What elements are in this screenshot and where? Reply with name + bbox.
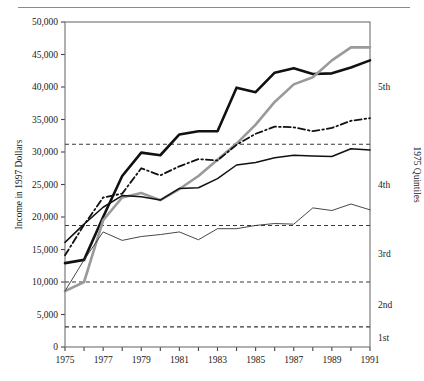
quintile-label-4th: 4th bbox=[378, 180, 390, 190]
y-tick-label: 25,000 bbox=[32, 180, 58, 190]
quintile-label-5th: 5th bbox=[378, 82, 390, 92]
quintile-label-3rd: 3rd bbox=[378, 249, 391, 259]
plot-border bbox=[65, 22, 370, 347]
x-tick-label: 1985 bbox=[246, 355, 265, 365]
x-tick-label: 1991 bbox=[361, 355, 380, 365]
right-axis-title: 1975 Quintiles bbox=[412, 146, 422, 203]
series-line-series-dash-dot bbox=[65, 118, 370, 255]
plot-frame bbox=[65, 22, 370, 347]
x-tick-label: 1983 bbox=[208, 355, 227, 365]
y-axis-title-group: Income in 1997 Dollars bbox=[14, 139, 24, 229]
chart-container: Income in 1997 Dollars 1975 Quintiles 05… bbox=[0, 0, 424, 381]
x-tick-label: 1975 bbox=[56, 355, 75, 365]
y-tick-label: 30,000 bbox=[32, 147, 58, 157]
x-tick-label: 1987 bbox=[284, 355, 303, 365]
series-line-series-gray bbox=[65, 47, 370, 291]
figure-root: Income in 1997 Dollars 1975 Quintiles 05… bbox=[0, 0, 424, 381]
right-axis-title-group: 1975 Quintiles bbox=[412, 146, 422, 203]
data-series-group bbox=[65, 47, 370, 291]
y-tick-label: 20,000 bbox=[32, 212, 58, 222]
y-tick-label: 50,000 bbox=[32, 17, 58, 27]
quintile-label-2nd: 2nd bbox=[378, 300, 393, 310]
y-axis-ticks-group: 05,00010,00015,00020,00025,00030,00035,0… bbox=[32, 17, 65, 352]
y-axis-title: Income in 1997 Dollars bbox=[14, 139, 24, 229]
x-tick-label: 1989 bbox=[322, 355, 341, 365]
y-tick-label: 15,000 bbox=[32, 245, 58, 255]
y-tick-label: 0 bbox=[53, 342, 58, 352]
y-tick-label: 40,000 bbox=[32, 82, 58, 92]
y-tick-label: 10,000 bbox=[32, 277, 58, 287]
x-tick-label: 1977 bbox=[94, 355, 113, 365]
y-tick-label: 45,000 bbox=[32, 50, 58, 60]
quintile-labels-group: 1st2nd3rd4th5th bbox=[378, 82, 393, 342]
y-tick-label: 35,000 bbox=[32, 115, 58, 125]
quintile-label-1st: 1st bbox=[378, 333, 389, 343]
y-tick-label: 5,000 bbox=[37, 310, 59, 320]
series-line-series-thin-black bbox=[65, 204, 370, 291]
x-tick-label: 1979 bbox=[132, 355, 151, 365]
x-axis-ticks-group: 197519771979198119831985198719891991 bbox=[56, 347, 380, 365]
line-chart: Income in 1997 Dollars 1975 Quintiles 05… bbox=[0, 0, 424, 381]
x-tick-label: 1981 bbox=[170, 355, 189, 365]
series-line-series-thick-black bbox=[65, 60, 370, 263]
